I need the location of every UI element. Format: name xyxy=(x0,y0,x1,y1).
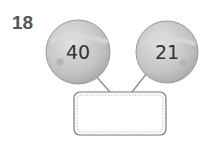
connector-line-right xyxy=(132,73,147,92)
ball-left-label: 40 xyxy=(66,41,90,63)
number-bond-diagram: 40 21 xyxy=(0,0,208,145)
ball-right-label: 21 xyxy=(155,41,179,63)
ball-left: 40 xyxy=(46,20,110,84)
answer-box[interactable] xyxy=(74,92,166,135)
ball-right: 21 xyxy=(136,21,198,83)
